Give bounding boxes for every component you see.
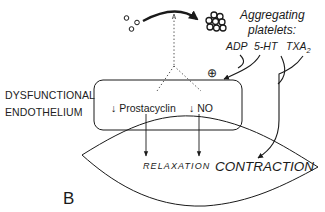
- mediator-txa2: TXA2: [286, 41, 311, 54]
- platelets-title-line1: Aggregating: [240, 9, 305, 21]
- no-label: ↓ NO: [189, 103, 213, 114]
- activation-arrow: [143, 12, 197, 21]
- stimulation-plus-icon: ⊕: [207, 67, 217, 79]
- contraction-label: CONTRACTION: [215, 160, 314, 174]
- dysfunctional-label: DYSFUNCTIONAL: [5, 90, 95, 101]
- endothelium-label: ENDOTHELIUM: [5, 107, 83, 118]
- txa2-arrow: [258, 56, 303, 158]
- adp-5ht-arrow: [224, 55, 260, 79]
- resting-platelets-icon: [124, 16, 139, 32]
- platelets-title-line2: platelets:: [248, 24, 296, 36]
- relaxation-label: RELAXATION: [143, 162, 210, 171]
- aggregating-platelets-icon: [206, 12, 226, 31]
- prostacyclin-label: ↓ Prostacyclin: [111, 103, 176, 114]
- mediator-adp: ADP: [226, 41, 248, 52]
- mediator-5ht: 5-HT: [254, 41, 277, 52]
- panel-label: B: [63, 190, 74, 207]
